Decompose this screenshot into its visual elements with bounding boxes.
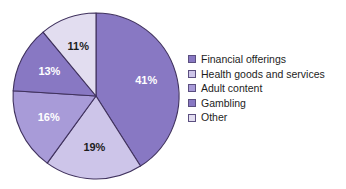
legend-swatch-icon [188, 70, 196, 78]
legend-swatch-icon [188, 114, 196, 122]
legend-swatch-icon [188, 84, 196, 92]
legend-item-gambling[interactable]: Gambling [188, 96, 344, 111]
chart-legend: Financial offerings Health goods and ser… [188, 52, 344, 125]
pie-plot-area: 41%19%16%13%11% [0, 0, 190, 189]
pie-slice-value-label: 41% [135, 74, 157, 86]
pie-slice-value-label: 13% [38, 65, 60, 77]
pie-slice-value-label: 11% [68, 40, 90, 52]
pie-svg: 41%19%16%13%11% [0, 0, 190, 189]
legend-item-health-goods-and-services[interactable]: Health goods and services [188, 67, 344, 82]
legend-item-label: Financial offerings [201, 54, 286, 65]
legend-item-label: Other [201, 112, 227, 123]
pie-slice-value-label: 16% [38, 111, 60, 123]
pie-chart-figure: 41%19%16%13%11% Financial offerings Heal… [0, 0, 346, 189]
legend-item-label: Adult content [201, 83, 262, 94]
legend-item-financial-offerings[interactable]: Financial offerings [188, 52, 344, 67]
legend-swatch-icon [188, 55, 196, 63]
legend-item-adult-content[interactable]: Adult content [188, 81, 344, 96]
legend-item-label: Health goods and services [201, 69, 325, 80]
legend-item-label: Gambling [201, 98, 246, 109]
legend-swatch-icon [188, 99, 196, 107]
pie-slice-group [13, 13, 179, 179]
legend-item-other[interactable]: Other [188, 110, 344, 125]
pie-slice-value-label: 19% [83, 141, 105, 153]
